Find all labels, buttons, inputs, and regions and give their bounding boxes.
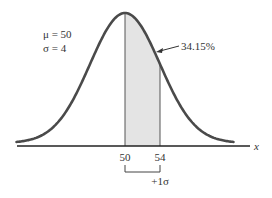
shaded-area [125, 13, 160, 146]
normal-curve-chart: x μ = 50 σ = 4 50 54 +1σ 34.15% [0, 0, 272, 198]
arrow-head-icon [156, 48, 163, 53]
mean-param-label: μ = 50 [43, 28, 72, 40]
x-tick-label: 50 [120, 151, 132, 163]
x-tick-label: 54 [155, 151, 167, 163]
sd-bracket-label: +1σ [151, 175, 169, 187]
sd-bracket [125, 165, 160, 172]
sd-param-label: σ = 4 [43, 42, 67, 54]
area-percentage-label: 34.15% [181, 40, 215, 52]
x-axis-label: x [253, 140, 259, 152]
